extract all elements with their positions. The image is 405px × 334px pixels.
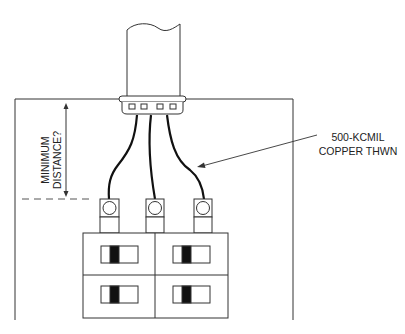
breaker-panel [83, 233, 228, 318]
conduit-bushing [119, 96, 186, 114]
breaker-bottom-right [173, 286, 210, 303]
conduit-pipe [127, 24, 180, 97]
terminal-lug-right [194, 199, 212, 233]
dimension-label-line1: MINIMUM [39, 136, 51, 183]
conductors [109, 115, 204, 199]
terminal-lugs [100, 199, 212, 233]
conductor-callout-arrow [197, 135, 317, 168]
dimension-arrow [64, 103, 69, 197]
breaker-top-left [101, 246, 138, 263]
conductor-middle [150, 115, 155, 199]
terminal-lug-left [100, 199, 119, 233]
conductor-label-line1: 500-KCMIL [331, 131, 384, 143]
dimension-label-line2: DISTANCE? [51, 131, 63, 189]
panel-clearance-diagram: MINIMUM DISTANCE? [0, 0, 405, 334]
conductor-left [109, 115, 137, 199]
terminal-lug-middle [146, 199, 164, 233]
breaker-bottom-left [101, 286, 138, 303]
conductor-label-line2: COPPER THWN [319, 145, 398, 157]
breaker-top-right [173, 246, 210, 263]
conductor-right [167, 115, 204, 199]
